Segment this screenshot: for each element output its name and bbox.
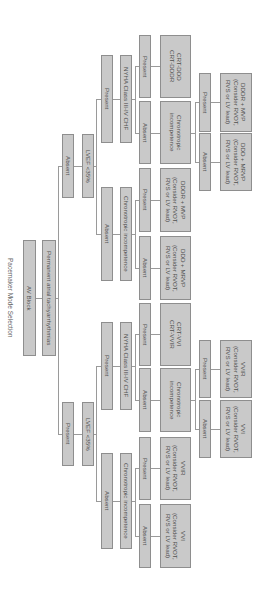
- node-chrono-absent-r2: Absent: [139, 236, 151, 300]
- node-label: Present: [103, 355, 111, 376]
- node-label: Permanent atrial tachyarrhythmias: [45, 251, 53, 345]
- connector: [151, 468, 160, 469]
- connector: [151, 536, 160, 537]
- node-chrono-present-r2: Present: [139, 168, 151, 232]
- result-label: DDD + MRVP (Consider RVOT, RVS or LV lea…: [164, 245, 187, 292]
- connector: [151, 200, 160, 201]
- node-label: Present: [141, 324, 149, 345]
- node-label: Chronotropic incompetence: [122, 196, 130, 272]
- connector: [211, 429, 220, 430]
- node-chrono-absent-l1: Absent: [199, 400, 211, 458]
- connector: [74, 434, 82, 435]
- node-chrono-l2: Chronotropic incompetence: [120, 453, 132, 549]
- node-label: Absent: [103, 224, 111, 243]
- result-ddd-mrvp-1: DDD + MRVP (Consider RVOT, RVS or LV lea…: [220, 133, 252, 191]
- node-label: Absent: [64, 156, 72, 175]
- node-label: NYHA Class III-IV CHF: [122, 334, 130, 397]
- connector: [113, 99, 120, 100]
- node-atrial-present: Present: [62, 402, 74, 466]
- node-permanent-atrial-tachyarrhythmias: Permanent atrial tachyarrhythmias: [42, 240, 56, 356]
- connector: [151, 334, 160, 335]
- node-label: NYHA Class III-IV CHF: [122, 67, 130, 130]
- connector: [135, 200, 136, 268]
- node-lvef-absent-l: Absent: [101, 453, 113, 549]
- node-label: Present: [141, 458, 149, 479]
- node-chrono-l1: Chronotropic incompetence: [160, 368, 191, 432]
- connector: [211, 369, 220, 370]
- connector: [113, 234, 120, 235]
- node-atrial-absent: Absent: [62, 134, 74, 198]
- result-ddd-mrvp-2: DDD + MRVP (Consider RVOT, RVS or LV lea…: [160, 236, 191, 300]
- connector: [58, 166, 59, 434]
- node-lvef-present-l: Present: [101, 322, 113, 410]
- connector: [113, 366, 120, 367]
- result-label: VVIR (Consider RVOT, RVS or LV lead): [225, 346, 248, 393]
- result-crt-vvi: CRT-VVI CRT-VVIR: [160, 303, 191, 366]
- node-label: Absent: [141, 526, 149, 545]
- node-label: Absent: [141, 390, 149, 409]
- node-label: Chronotropic incompetence: [168, 381, 183, 420]
- node-chrono-r1: Chronotropic incompetence: [160, 101, 191, 164]
- connector: [135, 334, 136, 401]
- node-nyha-present-l: Present: [139, 303, 151, 366]
- result-label: VVIR (Consider RVOT, RVS or LV lead): [164, 445, 187, 492]
- connector: [211, 102, 220, 103]
- node-label: LVEF <35%: [84, 418, 92, 451]
- node-lvef-present-r: Present: [101, 55, 113, 143]
- connector: [74, 166, 82, 167]
- connector: [135, 468, 136, 536]
- node-label: LVEF <35%: [84, 150, 92, 183]
- node-lvef-absent-r: Absent: [101, 187, 113, 281]
- node-av-block: AV Block: [23, 240, 36, 356]
- connector: [151, 133, 160, 134]
- result-vvir-1: VVIR (Consider RVOT, RVS or LV lead): [220, 340, 252, 398]
- result-label: VVI (Consider RVOT, RVS or LV lead): [225, 406, 248, 453]
- node-chrono-present-l1: Present: [199, 340, 211, 398]
- node-nyha-present-r: Present: [139, 35, 151, 98]
- result-vvi-2: VVI (Consider RVOT, RVS or LV lead): [160, 504, 191, 568]
- result-vvi-1: VVI (Consider RVOT, RVS or LV lead): [220, 400, 252, 458]
- node-nyha-l: NYHA Class III-IV CHF: [120, 322, 132, 410]
- node-label: Absent: [141, 123, 149, 142]
- node-nyha-absent-l: Absent: [139, 368, 151, 432]
- result-dddr-mvp-2: DDDR + MVP (Consider RVOT, RVS or LV lea…: [160, 168, 191, 232]
- diagram-title: Pacemaker Mode Selection: [4, 240, 16, 356]
- connector: [211, 162, 220, 163]
- connector: [151, 400, 160, 401]
- node-chrono-r2: Chronotropic incompetence: [120, 187, 132, 281]
- result-label: DDDR + MVP (Consider RVOT, RVS or LV lea…: [164, 177, 187, 224]
- node-label: Present: [141, 189, 149, 210]
- result-label: CRT-DDD CRT-DDDR: [168, 50, 183, 82]
- result-label: DDDR + MVP (Consider RVOT, RVS or LV lea…: [225, 79, 248, 126]
- result-vvir-2: VVIR (Consider RVOT, RVS or LV lead): [160, 437, 191, 500]
- result-crt-ddd: CRT-DDD CRT-DDDR: [160, 35, 191, 98]
- node-label: Absent: [201, 152, 209, 171]
- node-chrono-absent-l2: Absent: [139, 504, 151, 568]
- node-nyha-absent-r: Absent: [139, 101, 151, 164]
- connector: [195, 102, 196, 162]
- connector: [96, 366, 97, 501]
- node-chrono-present-r1: Present: [199, 73, 211, 132]
- result-label: VVI (Consider RVOT, RVS or LV lead): [164, 513, 187, 560]
- node-label: Present: [201, 92, 209, 113]
- node-chrono-absent-r1: Absent: [199, 133, 211, 191]
- connector: [151, 268, 160, 269]
- node-lvef-left: LVEF <35%: [82, 402, 94, 466]
- result-label: DDD + MRVP (Consider RVOT, RVS or LV lea…: [225, 139, 248, 186]
- node-lvef-right: LVEF <35%: [82, 134, 94, 198]
- connector: [151, 66, 160, 67]
- node-label: Absent: [141, 258, 149, 277]
- node-label: Chronotropic incompetence: [122, 463, 130, 539]
- node-chrono-present-l2: Present: [139, 437, 151, 500]
- result-label: CRT-VVI CRT-VVIR: [168, 320, 183, 349]
- connector: [113, 501, 120, 502]
- node-label: Present: [141, 56, 149, 77]
- node-label: Absent: [103, 491, 111, 510]
- node-label: Chronotropic incompetence: [168, 113, 183, 152]
- result-dddr-mvp-1: DDDR + MVP (Consider RVOT, RVS or LV lea…: [220, 73, 252, 132]
- node-label: Present: [201, 358, 209, 379]
- connector: [36, 298, 42, 299]
- node-label: Present: [103, 88, 111, 109]
- node-label: AV Block: [26, 286, 34, 311]
- connector: [195, 369, 196, 429]
